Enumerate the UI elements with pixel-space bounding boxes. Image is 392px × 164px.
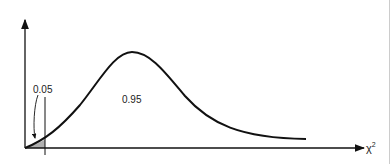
x-axis-label: χ2 <box>366 141 376 154</box>
density-curve <box>25 52 306 148</box>
tail-probability-label: 0.05 <box>33 84 53 95</box>
chi-square-chart: 0.05 0.95 χ2 <box>0 0 392 164</box>
body-probability-label: 0.95 <box>122 94 142 105</box>
tail-pointer-arrow <box>34 95 38 138</box>
